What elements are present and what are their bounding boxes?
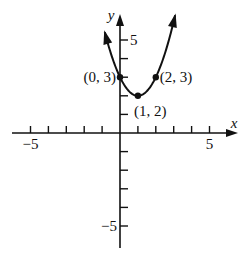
y-axis-label: y [106,7,115,23]
y-tick-label: 5 [130,32,138,48]
point-label: (0, 3) [84,69,117,86]
axes [12,20,232,248]
point-label: (2, 3) [160,69,193,86]
parabola-graph: −555−5xy(0, 3)(1, 2)(2, 3) [0,0,243,255]
x-tick-label: −5 [23,136,39,152]
point-marker [153,74,159,80]
x-tick-label: 5 [206,136,214,152]
x-axis-label: x [230,115,238,131]
point-label: (1, 2) [134,103,167,120]
y-axis-arrow-icon [116,14,124,26]
labels: −555−5xy(0, 3)(1, 2)(2, 3) [23,7,238,234]
y-tick-label: −5 [101,218,117,234]
point-marker [117,74,123,80]
curve-arrow-icon [103,30,112,45]
point-marker [135,93,141,99]
curve-arrow-icon [168,13,177,28]
